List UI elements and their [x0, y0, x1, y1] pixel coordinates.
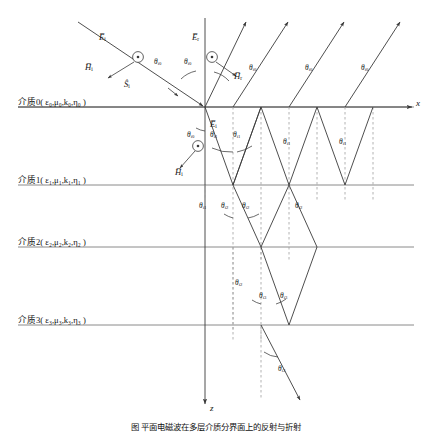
theta-i2-up-label: θi2	[295, 202, 302, 210]
theta-i3-right-label: θi3	[280, 292, 287, 300]
rays-medium2	[233, 185, 317, 247]
theta-i0-reflected-label: θi0	[184, 58, 191, 66]
z-axis-label: z	[210, 404, 214, 413]
theta-i0-r4-label: θi0	[361, 64, 368, 72]
transmitted-ray-bottom	[261, 325, 300, 400]
theta-i2-left-label: θi2	[221, 202, 228, 210]
angle-arcs	[181, 71, 286, 357]
theta-i0-r2-label: θi0	[249, 64, 256, 72]
figure-canvas: 介质0( ε₀,μ₀,k₀,η₀ ) 介质1( ε₁,μ₁,k₁,η₁ ) 介质…	[0, 0, 432, 442]
polarization-dot-transmitted	[193, 141, 204, 152]
normal-dashed-lines	[205, 107, 373, 400]
medium-0-label: 介质0( ε₀,μ₀,k₀,η₀ )	[18, 98, 86, 107]
theta-i1-up1-label: θi1	[283, 138, 290, 146]
reflected-H-label: H̅r	[234, 72, 242, 81]
field-vector-arrows	[108, 62, 236, 168]
theta-i0-incident-label: θi0	[154, 58, 161, 66]
medium-interfaces	[18, 107, 414, 325]
theta-i2-right-label: θi2	[242, 202, 249, 210]
incident-H-arrow	[108, 62, 134, 78]
reflected-E-label: E̅r	[192, 33, 199, 42]
medium-3-label: 介质3( ε₃,μ₃,k₃,η₃ )	[18, 316, 86, 325]
polarization-dot-reflected	[207, 52, 218, 63]
theta-i1-up2-label: θi1	[339, 138, 346, 146]
theta-i0-r3-label: θi0	[305, 64, 312, 72]
reflected-rays-medium0	[205, 22, 400, 107]
theta-i2-b1-label: θi2	[235, 279, 242, 287]
transmitted-E-label: E̅i	[210, 120, 217, 129]
transmitted-H-arrow	[180, 151, 195, 168]
x-axis-label: x	[416, 99, 420, 108]
axes	[18, 18, 412, 404]
incident-H-label: H̅i	[85, 63, 93, 72]
medium-1-label: 介质1( ε₁,μ₁,k₁,η₁ )	[18, 176, 86, 185]
theta-i1-b1-label: θi1	[199, 202, 206, 210]
incident-S-label: Ŝi	[124, 80, 130, 89]
figure-caption: 图 平面电磁波在多层介质分界面上的反射与折射	[0, 424, 432, 432]
medium-2-label: 介质2( ε₂,μ₂,k₂,η₂ )	[18, 238, 86, 247]
theta-i1-left-label: θi1	[210, 131, 217, 139]
theta-i1-right-label: θi1	[233, 131, 240, 139]
theta-i3-bottom-label: θi3	[278, 365, 285, 373]
polarization-dot-incident	[133, 52, 144, 63]
incident-S-arrow	[168, 88, 178, 96]
theta-i3-left-label: θi3	[259, 292, 266, 300]
transmitted-H-label: H̅i	[175, 168, 183, 177]
incident-E-label: E̅i	[99, 33, 106, 42]
theta-i0-refracted-label: θi0	[187, 131, 194, 139]
